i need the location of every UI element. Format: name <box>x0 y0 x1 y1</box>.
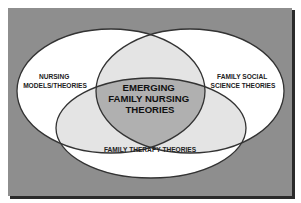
venn-diagram: NURSING MODELS/THEORIES FAMILY SOCIAL SC… <box>0 0 301 203</box>
family-therapy-label: FAMILY THERAPY THEORIES <box>104 146 197 153</box>
